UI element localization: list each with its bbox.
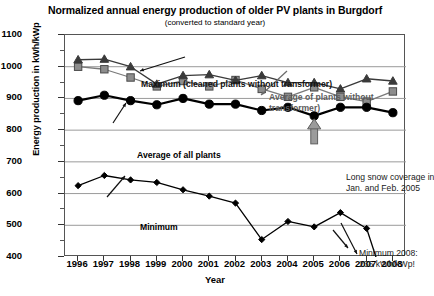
y-axis-label: Energy production in kWh/kWp — [31, 9, 41, 169]
data-point-diamond — [101, 172, 107, 178]
arrow-head — [140, 68, 144, 71]
leader-line — [140, 57, 185, 71]
data-point-circle — [126, 97, 134, 105]
y-tick-label: 1100 — [0, 28, 22, 39]
chart-subtitle: (converted to standard year) — [0, 18, 430, 27]
data-point-triangle — [362, 74, 371, 82]
x-axis-label: Year — [0, 274, 430, 285]
y-tick-label: 800 — [0, 123, 22, 134]
data-point-square — [101, 66, 108, 73]
annotation-average-no-transformer-label: Average of plants without transformer) — [269, 92, 404, 113]
plot-area: Maximum (cleaned plants without transfor… — [64, 34, 405, 256]
annotation-snow-line2: Jan. and Feb. 2005 — [346, 183, 434, 194]
annotation-minimum-label: Minimum — [140, 222, 178, 233]
annotation-snow-coverage: Long snow coverage in Jan. and Feb. 2005 — [346, 172, 434, 193]
data-point-diamond — [127, 177, 133, 183]
data-point-diamond — [180, 187, 186, 193]
data-point-diamond — [311, 224, 317, 230]
y-tick-label: 500 — [0, 218, 22, 229]
y-tick-label: 600 — [0, 187, 22, 198]
snow-arrow-head — [308, 119, 321, 129]
chart-series-layer — [65, 35, 406, 257]
data-point-diamond — [75, 183, 81, 189]
data-point-square — [74, 63, 81, 70]
data-point-circle — [205, 100, 213, 108]
annotation-min2008-line1: Minimum 2008: — [359, 248, 418, 259]
chart-title: Normalized annual energy production of o… — [0, 4, 430, 16]
data-point-triangle — [257, 71, 266, 79]
data-point-triangle — [205, 70, 214, 78]
data-point-circle — [74, 97, 82, 105]
data-point-diamond — [154, 179, 160, 185]
y-tick-label: 900 — [0, 91, 22, 102]
annotation-average-all-label: Average of all plants — [137, 150, 221, 161]
data-point-circle — [179, 94, 187, 102]
data-point-circle — [153, 101, 161, 109]
annotation-snow-line1: Long snow coverage in — [346, 172, 434, 183]
leader-line — [341, 223, 357, 254]
data-point-circle — [100, 91, 108, 99]
annotation-min2008-line2: 236 kWh/kWp! — [359, 259, 418, 270]
annotation-minimum-2008: Minimum 2008: 236 kWh/kWp! — [359, 248, 418, 269]
annotation-maximum-label: Maximum (cleaned plants without transfor… — [141, 79, 332, 90]
y-tick-label: 400 — [0, 250, 22, 261]
data-point-square — [127, 74, 134, 81]
y-tick-label: 1000 — [0, 60, 22, 71]
data-point-circle — [231, 100, 239, 108]
data-point-diamond — [364, 225, 370, 231]
y-tick-mark — [58, 256, 64, 257]
data-point-circle — [258, 106, 266, 114]
data-point-diamond — [337, 210, 343, 216]
y-tick-label: 700 — [0, 155, 22, 166]
